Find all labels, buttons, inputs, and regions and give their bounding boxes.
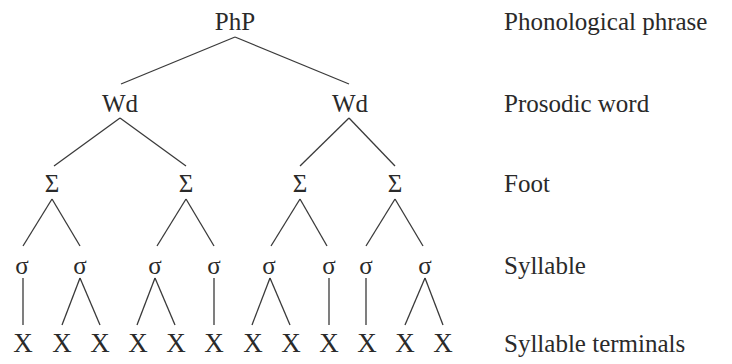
tree-edge: [349, 118, 395, 166]
node-syl: σ: [262, 253, 275, 278]
level-label-php: Phonological phrase: [504, 9, 707, 34]
node-syl: σ: [73, 253, 86, 278]
tree-edge: [235, 37, 349, 84]
node-syl: σ: [207, 253, 220, 278]
tree-edge: [425, 278, 443, 325]
node-foot: Σ: [388, 171, 403, 196]
node-term: X: [166, 330, 186, 357]
prosodic-hierarchy-diagram: PhPWdWdΣΣΣΣσσσσσσσσXXXXXXXXXXXX Phonolog…: [0, 0, 732, 364]
tree-edge: [366, 199, 395, 246]
tree-edge: [80, 278, 100, 325]
node-term: X: [395, 330, 415, 357]
level-label-wd: Prosodic word: [504, 91, 649, 116]
tree-edge: [62, 278, 80, 325]
node-foot: Σ: [293, 171, 308, 196]
tree-edge: [300, 199, 327, 246]
tree-edge: [54, 118, 120, 166]
node-term: X: [52, 330, 72, 357]
tree-edges: [0, 0, 732, 364]
node-wd: Wd: [332, 91, 368, 116]
node-term: X: [90, 330, 110, 357]
tree-edge: [137, 278, 155, 325]
node-foot: Σ: [45, 171, 60, 196]
level-label-term: Syllable terminals: [504, 331, 685, 356]
level-label-syl: Syllable: [504, 253, 586, 278]
node-syl: σ: [322, 253, 335, 278]
node-syl: σ: [15, 253, 28, 278]
tree-edge: [186, 199, 214, 246]
tree-edge: [271, 199, 300, 246]
node-wd: Wd: [102, 91, 138, 116]
node-php: PhP: [215, 9, 255, 34]
tree-edge: [157, 199, 186, 246]
node-term: X: [281, 330, 301, 357]
node-term: X: [204, 330, 224, 357]
tree-edge: [52, 199, 80, 246]
node-term: X: [243, 330, 263, 357]
node-term: X: [128, 330, 148, 357]
node-term: X: [13, 330, 33, 357]
level-label-foot: Foot: [504, 171, 550, 196]
tree-edge: [252, 278, 270, 325]
node-syl: σ: [418, 253, 431, 278]
node-term: X: [319, 330, 339, 357]
tree-edge: [300, 118, 349, 166]
tree-edge: [405, 278, 425, 325]
tree-edge: [120, 118, 186, 166]
node-foot: Σ: [179, 171, 194, 196]
tree-edge: [121, 37, 235, 84]
tree-edge: [270, 278, 290, 325]
tree-edge: [395, 199, 423, 246]
node-syl: σ: [359, 253, 372, 278]
node-term: X: [433, 330, 453, 357]
tree-edge: [155, 278, 175, 325]
node-syl: σ: [148, 253, 161, 278]
node-term: X: [357, 330, 377, 357]
tree-edge: [23, 199, 52, 246]
